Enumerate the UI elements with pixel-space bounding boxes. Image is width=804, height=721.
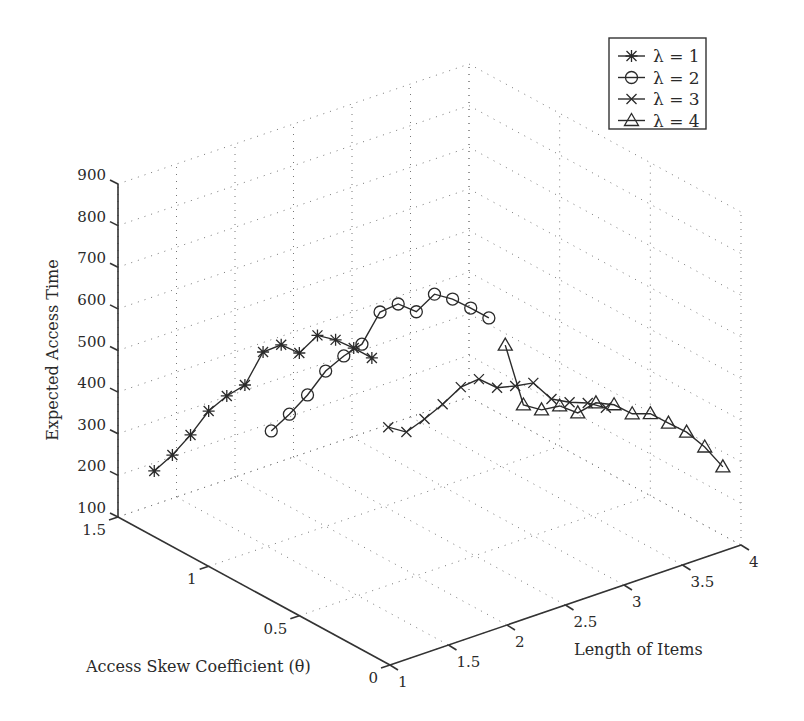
asterisk-marker-icon xyxy=(148,465,160,477)
theta-tick-label: 1.5 xyxy=(82,521,106,539)
legend-label: λ = 1 xyxy=(653,46,700,66)
length-axis-title: Length of Items xyxy=(574,640,703,659)
z-tick xyxy=(110,430,118,434)
length-tick-label: 2.5 xyxy=(573,613,597,631)
z-tick xyxy=(110,388,118,392)
asterisk-marker-icon xyxy=(626,50,638,62)
series-circle xyxy=(265,288,495,437)
length-tick xyxy=(741,545,749,550)
series-asterisk xyxy=(148,329,378,477)
length-tick-label: 3.5 xyxy=(690,573,714,591)
data-series xyxy=(148,288,730,477)
triangle-marker-icon xyxy=(498,338,512,350)
theta-axis-title: Access Skew Coefficient (θ) xyxy=(85,657,311,676)
asterisk-marker-icon xyxy=(185,429,197,441)
length-tick-label: 1.5 xyxy=(456,653,480,671)
series-x xyxy=(383,374,611,437)
length-tick xyxy=(682,565,690,570)
z-tick xyxy=(110,305,118,309)
z-tick-label: 600 xyxy=(77,291,106,309)
length-tick xyxy=(565,605,573,610)
length-tick xyxy=(624,585,632,590)
z-tick-label: 100 xyxy=(77,499,106,517)
3d-line-chart: 10020030040050060070080090000.511.511.52… xyxy=(0,0,804,721)
asterisk-marker-icon xyxy=(166,449,178,461)
length-tick-label: 4 xyxy=(749,553,759,571)
grid-line xyxy=(299,496,650,616)
grid-line xyxy=(469,355,741,503)
z-tick-label: 800 xyxy=(77,208,106,226)
length-tick-label: 2 xyxy=(515,633,525,651)
legend-label: λ = 4 xyxy=(653,111,700,131)
z-tick-label: 500 xyxy=(77,333,106,351)
z-tick-label: 400 xyxy=(77,374,106,392)
length-tick xyxy=(390,665,398,670)
x-marker-icon xyxy=(456,382,466,392)
legend: λ = 1λ = 2λ = 3λ = 4 xyxy=(609,38,706,131)
triangle-marker-icon xyxy=(698,440,712,452)
x-marker-icon xyxy=(420,414,430,424)
asterisk-marker-icon xyxy=(257,346,269,358)
length-tick xyxy=(448,645,456,650)
grid-line xyxy=(469,189,741,337)
z-tick-label: 300 xyxy=(77,416,106,434)
x-marker-icon xyxy=(401,427,411,437)
theta-tick xyxy=(381,665,390,668)
grid-line xyxy=(469,231,741,379)
axes: 10020030040050060070080090000.511.511.52… xyxy=(77,166,758,691)
x-marker-icon xyxy=(438,399,448,409)
asterisk-marker-icon xyxy=(221,390,233,402)
length-tick-label: 1 xyxy=(398,673,408,691)
theta-tick-label: 0.5 xyxy=(263,620,287,638)
grid-line xyxy=(209,446,560,566)
legend-label: λ = 2 xyxy=(653,68,700,88)
theta-tick xyxy=(109,517,118,520)
z-tick-label: 900 xyxy=(77,166,106,184)
theta-tick xyxy=(290,616,299,619)
length-tick xyxy=(507,625,515,630)
legend-label: λ = 3 xyxy=(653,89,700,109)
theta-tick-label: 0 xyxy=(368,669,378,687)
z-tick xyxy=(110,513,118,517)
theta-tick-label: 1 xyxy=(187,570,197,588)
z-tick-label: 200 xyxy=(77,457,106,475)
theta-tick xyxy=(200,566,209,569)
asterisk-marker-icon xyxy=(275,339,287,351)
z-tick xyxy=(110,180,118,184)
asterisk-marker-icon xyxy=(330,334,342,346)
z-axis-title: Expected Access Time xyxy=(43,259,62,440)
x-marker-icon xyxy=(474,374,484,384)
triangle-marker-icon xyxy=(625,407,639,419)
x-marker-icon xyxy=(383,422,393,432)
z-tick xyxy=(110,263,118,267)
z-tick xyxy=(110,347,118,351)
asterisk-marker-icon xyxy=(293,347,305,359)
z-tick-label: 700 xyxy=(77,249,106,267)
series-triangle xyxy=(498,338,730,472)
length-tick-label: 3 xyxy=(632,593,642,611)
asterisk-marker-icon xyxy=(311,329,323,341)
z-tick xyxy=(110,222,118,226)
grid-line xyxy=(469,397,741,545)
grid-line xyxy=(469,314,741,462)
asterisk-marker-icon xyxy=(239,379,251,391)
asterisk-marker-icon xyxy=(366,352,378,364)
z-tick xyxy=(110,471,118,475)
grid-line xyxy=(469,147,741,295)
grid-lines xyxy=(118,64,741,665)
asterisk-marker-icon xyxy=(203,405,215,417)
